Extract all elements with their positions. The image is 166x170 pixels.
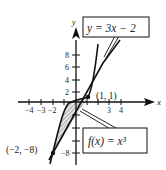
point-neg2-neg8 <box>51 151 55 155</box>
y-tick-label: 4 <box>65 76 69 85</box>
y-axis <box>72 27 80 165</box>
x-axis-label: x <box>156 97 161 107</box>
x-tick-label: 4 <box>119 106 123 115</box>
y-axis-label: y <box>71 18 76 27</box>
area-between-curves-figure: x −4 −3 −2 3 4 y 8 6 4 2 −8 (1, 1) (−2, … <box>0 0 166 170</box>
point-label-neg2-neg8: (−2, −8) <box>6 145 37 156</box>
x-tick-label: −3 <box>37 106 46 115</box>
y-tick-label: 2 <box>65 88 69 97</box>
y-tick-label: 8 <box>65 51 69 60</box>
x-tick-label: −4 <box>25 106 34 115</box>
y-tick-label: −8 <box>61 149 70 158</box>
x-tick-label: 3 <box>107 106 111 115</box>
line-callout-leader <box>104 36 119 58</box>
x-tick-label: −2 <box>48 106 57 115</box>
y-tick-label: 6 <box>65 63 69 72</box>
cubic-label: f(x) = x³ <box>88 135 127 148</box>
point-1-1 <box>86 95 90 99</box>
line-label: y = 3x − 2 <box>86 22 136 35</box>
x-axis <box>18 98 155 106</box>
point-label-1-1: (1, 1) <box>96 91 117 102</box>
